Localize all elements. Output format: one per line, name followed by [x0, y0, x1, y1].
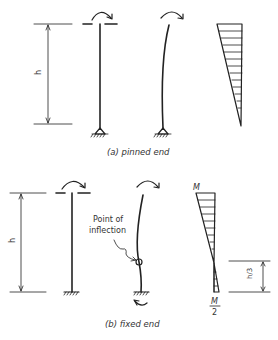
panel-a-pinned-end: h	[34, 12, 242, 157]
leader-arrow-icon	[114, 240, 135, 260]
height-dimension-a: h	[34, 24, 72, 124]
pinned-support-icon	[154, 128, 171, 137]
moment-label-top: M	[193, 183, 200, 192]
deflected-shape-b: Point of inflection	[89, 181, 159, 305]
dimension-label-h: h	[34, 70, 43, 75]
rotation-arrow-icon	[137, 181, 158, 187]
applied-moment-arrow-icon	[92, 12, 111, 20]
deflected-shape-a	[154, 12, 183, 137]
caption-b: (b) fixed end	[105, 319, 160, 329]
inflection-height-dimension: h/3	[229, 261, 270, 292]
moment-label-bottom-denominator: 2	[212, 308, 217, 317]
pinned-support-icon	[91, 128, 108, 137]
moment-diagram-a	[217, 24, 242, 126]
column-a	[83, 12, 117, 137]
panel-b-fixed-end: h	[8, 181, 270, 329]
fixed-support-icon	[64, 292, 79, 295]
caption-a: (a) pinned end	[107, 147, 170, 157]
moment-label-bottom-numerator: M	[211, 297, 218, 306]
dimension-label-h-over-3: h/3	[246, 268, 254, 279]
moment-diagram-b: M M 2 h/3	[193, 183, 270, 317]
rotation-arrow-icon	[161, 12, 182, 18]
fixed-support-icon	[134, 292, 149, 295]
height-dimension-b: h	[8, 193, 46, 292]
dimension-label-h: h	[8, 238, 17, 243]
column-b	[56, 181, 90, 295]
column-end-conditions-diagram: h	[0, 0, 278, 340]
applied-moment-arrow-icon	[62, 181, 84, 189]
inflection-label-line2: inflection	[89, 226, 126, 235]
inflection-label-line1: Point of	[93, 215, 123, 224]
